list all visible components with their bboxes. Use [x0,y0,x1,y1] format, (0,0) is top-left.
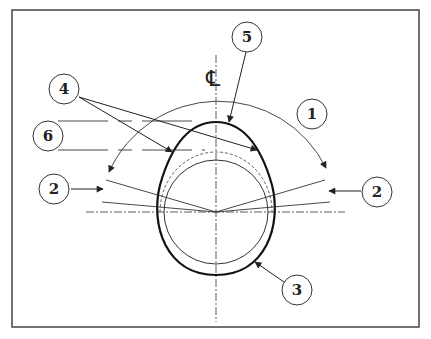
leader-3 [255,262,284,282]
callout-6-label: 6 [43,127,53,145]
callout-4: 4 [49,74,79,104]
centerline-symbol: ℄ [205,66,221,91]
callout-4-label: 4 [59,80,69,98]
leader-5 [229,52,246,122]
callout-2-right: 2 [362,177,392,207]
cam-lobe-diagram: ℄ 1 2 2 3 4 5 [0,0,431,339]
callout-1-label: 1 [307,105,317,123]
callout-3-label: 3 [292,281,302,299]
callout-2-left-label: 2 [49,180,59,198]
duration-arc [109,101,326,172]
callout-2-right-label: 2 [372,183,382,201]
drawing-frame [12,10,419,327]
leader-4a [79,97,172,152]
callout-2-left: 2 [39,174,69,204]
callout-1: 1 [297,99,327,129]
callout-6: 6 [33,121,63,151]
callout-5-label: 5 [242,28,252,46]
callout-5: 5 [232,22,262,52]
callout-3: 3 [282,275,312,305]
